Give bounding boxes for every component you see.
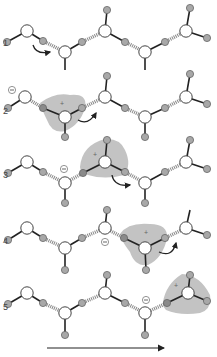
svg-text:+: + (93, 151, 97, 158)
oxygen-atom (19, 91, 31, 103)
hydrogen-atom (141, 133, 148, 140)
grotthuss-diagram: ++++ 1 2 3 4 5 (0, 0, 217, 357)
hydrogen-atom (78, 299, 85, 306)
hydrogen-atom (39, 299, 46, 306)
oxygen-atom (21, 25, 33, 37)
oxygen-atom (99, 156, 111, 168)
oxygen-atom (21, 287, 33, 299)
step-label-2: 2 (3, 106, 8, 116)
step-label-5: 5 (3, 302, 8, 312)
oxygen-atom (59, 307, 71, 319)
hydrogen-atom (61, 133, 68, 140)
step-label-4: 4 (3, 236, 8, 246)
oxygen-atom (139, 46, 151, 58)
oxygen-atom (99, 91, 111, 103)
hydrogen-atom (163, 299, 170, 306)
oxygen-atom (180, 91, 192, 103)
hydrogen-atom (103, 136, 110, 143)
oxygen-atom (59, 111, 71, 123)
oxygen-atom (139, 307, 151, 319)
hydrogen-atom (203, 100, 210, 107)
oxygen-atom (180, 156, 192, 168)
oxygen-atom (21, 156, 33, 168)
hydrogen-atom (61, 266, 68, 273)
oxygen-atom (59, 46, 71, 58)
hydrogen-atom (161, 168, 168, 175)
hydrogen-atom (103, 271, 110, 278)
hydrogen-atom (203, 297, 210, 304)
hydrogen-atom (120, 234, 127, 241)
oxygen-atom (21, 222, 33, 234)
oxygen-atom (182, 287, 194, 299)
hydrogen-atom (78, 234, 85, 241)
hydrogen-atom (78, 104, 85, 111)
hydrogen-atom (203, 34, 210, 41)
hydrogen-atom (141, 331, 148, 338)
hydrogen-atom (142, 266, 149, 273)
hydrogen-atom (203, 165, 210, 172)
step-labels: 1 2 3 4 5 (3, 38, 8, 312)
oxygen-atom (180, 25, 192, 37)
hydrogen-atom (121, 299, 128, 306)
hydrogen-atom (103, 72, 110, 79)
oxygen-atom (180, 222, 192, 234)
hydrogen-atom (141, 199, 148, 206)
hydrogen-atom (61, 331, 68, 338)
hydrogen-atom (186, 136, 193, 143)
oxygen-atom (139, 177, 151, 189)
oxygen-atom (59, 177, 71, 189)
hydrogen-atom (61, 199, 68, 206)
hydrogen-atom (39, 104, 46, 111)
svg-text:+: + (144, 229, 148, 236)
hydrogen-atom (39, 168, 46, 175)
oxygen-atom (139, 242, 151, 254)
hydrogen-atom (186, 70, 193, 77)
svg-text:+: + (60, 100, 64, 107)
step-label-3: 3 (3, 170, 8, 180)
hydrogen-atom (203, 231, 210, 238)
hydrogen-atom (78, 38, 85, 45)
hydrogen-atom (121, 168, 128, 175)
hydrogen-atom (186, 4, 193, 11)
step-label-1: 1 (3, 38, 8, 48)
oxygen-atom (99, 222, 111, 234)
oxygen-atom (139, 111, 151, 123)
hydrogen-atom (161, 104, 168, 111)
hydrogen-atom (161, 38, 168, 45)
oxygen-atom (99, 287, 111, 299)
oxygen-atom (59, 242, 71, 254)
hydrogen-atom (103, 6, 110, 13)
oxygen-atom (99, 25, 111, 37)
hydrogen-atom (161, 234, 168, 241)
hydrogen-atom (39, 37, 46, 44)
hydrogen-atom (121, 104, 128, 111)
svg-text:+: + (174, 282, 178, 289)
hydrogen-atom (79, 169, 86, 176)
hydrogen-atom (121, 38, 128, 45)
hydrogen-atom (186, 271, 193, 278)
hydrogen-atom (103, 206, 110, 213)
hydrogen-atom (39, 234, 46, 241)
